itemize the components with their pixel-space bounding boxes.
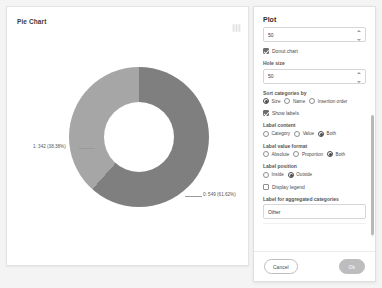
radio-icon-selected[interactable] (327, 151, 333, 157)
slice-label-1: 1: 342 (38.38%) (33, 144, 66, 149)
radio-label-proportion: Proportion (302, 152, 323, 157)
cancel-button[interactable]: Cancel (264, 259, 298, 274)
radio-label-both: Both (327, 131, 336, 136)
radio-label-content-value[interactable]: Value (294, 131, 314, 137)
hole-size-value: 50 (268, 73, 274, 79)
radio-label-content-category[interactable]: Category (263, 131, 290, 137)
size-input[interactable]: 50 (263, 27, 366, 42)
stepper-down-icon[interactable] (357, 39, 361, 41)
radio-icon[interactable] (293, 151, 299, 157)
donut-chart-label: Donut chart (272, 48, 298, 54)
checkbox-icon[interactable] (263, 184, 269, 190)
slice-label-0: 0: 549 (61.62%) (203, 192, 236, 197)
aggregated-label-input[interactable]: Other (263, 204, 366, 219)
size-input-value: 50 (268, 32, 274, 38)
donut-chart (69, 67, 209, 207)
app-root: Pie Chart 1: 342 (38.38%) 0: 549 (61.62%… (0, 0, 382, 288)
radio-sort-size[interactable]: Size (263, 98, 280, 104)
radio-format-both[interactable]: Both (327, 151, 345, 157)
plot-settings-panel: Plot 50 Donut chart Hole size 50 (253, 6, 376, 282)
chart-canvas: 1: 342 (38.38%) 0: 549 (61.62%) (7, 29, 250, 265)
page-title: Pie Chart (17, 18, 46, 25)
display-legend-checkbox[interactable]: Display legend (263, 184, 366, 190)
radio-icon[interactable] (284, 98, 290, 104)
stepper-down-icon[interactable] (357, 81, 361, 83)
radio-label-value: Value (303, 131, 314, 136)
radio-format-absolute[interactable]: Absolute (263, 151, 289, 157)
radio-label-absolute: Absolute (272, 152, 290, 157)
label-position-radiogroup[interactable]: Inside Outside (263, 172, 366, 178)
radio-label-outside: Outside (296, 172, 312, 177)
radio-label-insertion-order: Insertion order (318, 99, 348, 104)
label-content-label: Label content (263, 122, 366, 128)
show-labels-label: Show labels (272, 110, 299, 116)
chart-options-icon[interactable] (232, 19, 241, 29)
radio-icon-selected[interactable] (318, 131, 324, 137)
radio-icon[interactable] (263, 172, 269, 178)
leader-line-slice-1 (79, 148, 95, 149)
radio-label-both: Both (336, 152, 345, 157)
label-content-radiogroup[interactable]: Category Value Both (263, 131, 366, 137)
checkbox-icon-checked[interactable] (263, 48, 269, 54)
radio-sort-insertion-order[interactable]: Insertion order (309, 98, 347, 104)
settings-heading: Plot (254, 7, 375, 27)
radio-icon-selected[interactable] (263, 98, 269, 104)
stepper-up-icon[interactable] (357, 30, 361, 32)
display-legend-label: Display legend (272, 184, 305, 190)
radio-icon[interactable] (263, 151, 269, 157)
donut-chart-checkbox[interactable]: Donut chart (263, 48, 366, 54)
checkbox-icon-checked[interactable] (263, 110, 269, 116)
label-value-format-radiogroup[interactable]: Absolute Proportion Both (263, 151, 366, 157)
chart-panel: Pie Chart 1: 342 (38.38%) 0: 549 (61.62%… (6, 6, 249, 266)
sort-categories-radiogroup[interactable]: Size Name Insertion order (263, 98, 366, 104)
sort-categories-label: Sort categories by (263, 90, 366, 96)
label-value-format-label: Label value format (263, 143, 366, 149)
radio-icon-selected[interactable] (288, 172, 294, 178)
settings-footer: Cancel Ok (254, 251, 375, 281)
donut-hole (104, 102, 174, 172)
leader-line-slice-0 (185, 196, 202, 197)
radio-label-inside: Inside (272, 172, 284, 177)
radio-position-outside[interactable]: Outside (288, 172, 312, 178)
radio-icon[interactable] (294, 131, 300, 137)
hole-size-stepper[interactable] (357, 72, 362, 83)
show-labels-checkbox[interactable]: Show labels (263, 110, 366, 116)
radio-label-content-both[interactable]: Both (318, 131, 336, 137)
settings-body: 50 Donut chart Hole size 50 Sort categor… (254, 27, 375, 251)
size-stepper[interactable] (357, 30, 362, 41)
radio-icon[interactable] (309, 98, 315, 104)
label-position-label: Label position (263, 163, 366, 169)
radio-format-proportion[interactable]: Proportion (293, 151, 323, 157)
radio-label-name: Name (293, 99, 305, 104)
hole-size-label: Hole size (263, 60, 366, 66)
stepper-up-icon[interactable] (357, 72, 361, 74)
radio-position-inside[interactable]: Inside (263, 172, 284, 178)
radio-label-size: Size (272, 99, 281, 104)
divider (263, 223, 366, 224)
radio-label-category: Category (272, 131, 291, 136)
radio-sort-name[interactable]: Name (284, 98, 305, 104)
ok-button[interactable]: Ok (339, 259, 365, 274)
hole-size-input[interactable]: 50 (263, 69, 366, 84)
settings-scrollbar-thumb[interactable] (371, 115, 374, 235)
aggregated-label-label: Label for aggregated categories (263, 196, 366, 202)
radio-icon[interactable] (263, 131, 269, 137)
aggregated-label-value: Other (268, 209, 281, 215)
